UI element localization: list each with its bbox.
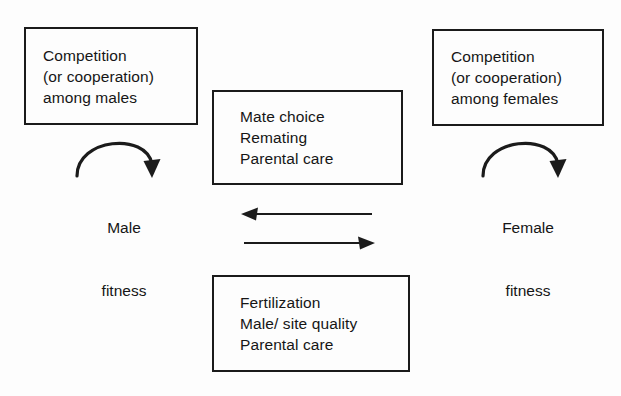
box-male-traits-line-3: Parental care bbox=[240, 334, 408, 355]
label-female-fitness: Female fitness bbox=[472, 175, 584, 343]
label-male-fitness-line-1: Male bbox=[72, 217, 176, 238]
box-male-traits-line-1: Fertilization bbox=[240, 292, 408, 313]
box-male-competition: Competition (or cooperation) among males bbox=[24, 27, 198, 125]
label-male-fitness-line-2: fitness bbox=[72, 280, 176, 301]
bidirectional-arrows-group bbox=[238, 203, 380, 251]
arrow-left-icon bbox=[241, 208, 372, 221]
label-female-fitness-line-2: fitness bbox=[472, 280, 584, 301]
box-female-traits-line-3: Parental care bbox=[240, 148, 401, 169]
box-female-traits-line-1: Mate choice bbox=[240, 106, 401, 127]
box-male-competition-line-2: (or cooperation) bbox=[43, 66, 196, 87]
box-female-traits: Mate choice Remating Parental care bbox=[212, 90, 403, 185]
box-male-traits: Fertilization Male/ site quality Parenta… bbox=[212, 275, 410, 372]
box-male-traits-line-2: Male/ site quality bbox=[240, 313, 408, 334]
diagram-canvas: Competition (or cooperation) among males… bbox=[0, 0, 621, 396]
box-female-competition: Competition (or cooperation) among femal… bbox=[432, 29, 604, 126]
label-female-fitness-line-1: Female bbox=[472, 217, 584, 238]
box-female-competition-line-3: among females bbox=[451, 88, 602, 109]
curved-arrow-female-loop-icon bbox=[478, 128, 578, 180]
box-male-competition-line-1: Competition bbox=[43, 45, 196, 66]
arrow-right-icon bbox=[244, 237, 375, 250]
label-male-fitness: Male fitness bbox=[72, 175, 176, 343]
box-female-competition-line-1: Competition bbox=[451, 46, 602, 67]
curved-arrow-male-loop-icon bbox=[72, 128, 172, 180]
box-male-competition-line-3: among males bbox=[43, 87, 196, 108]
box-female-competition-line-2: (or cooperation) bbox=[451, 67, 602, 88]
box-female-traits-line-2: Remating bbox=[240, 127, 401, 148]
